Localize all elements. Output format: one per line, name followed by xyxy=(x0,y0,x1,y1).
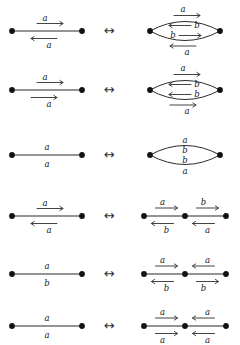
vertex xyxy=(147,152,153,158)
edge-label: b xyxy=(182,145,187,155)
edge-label: b xyxy=(194,79,199,89)
edge-label: b xyxy=(194,89,199,99)
vertex xyxy=(223,213,229,219)
graph-right-4: abba xyxy=(136,188,236,244)
equivalence-row: aa↔abba xyxy=(0,3,240,59)
graph-left-5: ab xyxy=(0,246,100,302)
edge-label: b xyxy=(201,283,206,293)
vertex xyxy=(217,152,223,158)
graph-right-5: abab xyxy=(136,246,236,302)
vertex xyxy=(141,323,147,329)
graph-right-6: aaaa xyxy=(136,298,236,345)
arrow-left-icon xyxy=(170,44,196,48)
right-graph-cell: abba xyxy=(136,62,236,118)
vertex xyxy=(79,213,85,219)
edge-label: b xyxy=(194,20,199,30)
equivalence-row: aa↔abba xyxy=(0,188,240,244)
equivalence-symbol: ↔ xyxy=(104,209,115,222)
edge-label: a xyxy=(180,4,185,14)
vertex xyxy=(9,213,15,219)
vertex xyxy=(9,87,15,93)
right-graph-cell: abab xyxy=(136,246,236,302)
arrow-left-icon xyxy=(169,92,191,96)
edge-label: a xyxy=(44,142,49,152)
graph-left-1: aa xyxy=(0,3,100,59)
edge-label: a xyxy=(160,255,165,265)
vertex xyxy=(79,271,85,277)
equivalence-symbol: ↔ xyxy=(104,267,115,280)
arrow-left-icon xyxy=(152,221,174,225)
vertex xyxy=(141,271,147,277)
graph-left-6: aa xyxy=(0,298,100,345)
edge-label: a xyxy=(44,159,49,169)
arrow-right-icon xyxy=(174,72,200,76)
vertex xyxy=(182,271,188,277)
vertex xyxy=(79,323,85,329)
arrow-left-icon xyxy=(152,279,174,283)
equivalence-row: aa↔abba xyxy=(0,127,240,183)
edge-label: a xyxy=(42,198,47,208)
graph-right-3: abba xyxy=(136,127,236,183)
vertex xyxy=(79,152,85,158)
edge-label: a xyxy=(44,261,49,271)
edge-label: b xyxy=(164,283,169,293)
edge-label: a xyxy=(42,72,47,82)
edge-label: a xyxy=(44,313,49,323)
edge-label: a xyxy=(205,225,210,235)
arrow-left-icon xyxy=(193,316,215,320)
vertex xyxy=(9,152,15,158)
arrow-right-icon xyxy=(170,103,196,107)
edge-label: b xyxy=(201,197,206,207)
vertex xyxy=(79,87,85,93)
edge-label: a xyxy=(44,330,49,340)
equivalence-symbol: ↔ xyxy=(104,319,115,332)
vertex xyxy=(141,213,147,219)
equivalence-row: aa↔aaaa xyxy=(0,298,240,345)
vertex xyxy=(217,28,223,34)
graph-left-2: aa xyxy=(0,62,100,118)
vertex xyxy=(147,28,153,34)
arrow-left-icon xyxy=(31,221,57,225)
graph-equivalence-figure: aa↔abbaaa↔abbaaa↔abbaaa↔abbaab↔ababaa↔aa… xyxy=(0,0,240,345)
equivalence-symbol: ↔ xyxy=(104,83,115,96)
edge-label: b xyxy=(170,30,175,40)
vertex xyxy=(9,271,15,277)
equivalence-row: aa↔abba xyxy=(0,62,240,118)
left-graph-cell: aa xyxy=(0,298,100,345)
arrow-right-icon xyxy=(179,33,201,37)
edge-label: a xyxy=(205,255,210,265)
right-graph-cell: abba xyxy=(136,127,236,183)
left-graph-cell: aa xyxy=(0,127,100,183)
edge-label: a xyxy=(42,13,47,23)
graph-right-2: abba xyxy=(136,62,236,118)
arrow-right-icon xyxy=(37,21,63,25)
arrow-right-icon xyxy=(174,13,200,17)
equivalence-row: ab↔abab xyxy=(0,246,240,302)
edge-label: a xyxy=(182,135,187,145)
left-graph-cell: ab xyxy=(0,246,100,302)
arrow-left-icon xyxy=(169,82,191,86)
edge-label: a xyxy=(184,106,189,116)
vertex xyxy=(182,213,188,219)
edge-label: b xyxy=(44,278,49,288)
equivalence-symbol: ↔ xyxy=(104,24,115,37)
vertex xyxy=(147,87,153,93)
edge-label: a xyxy=(205,307,210,317)
graph-right-1: abba xyxy=(136,3,236,59)
arrow-right-icon xyxy=(31,95,57,99)
arrow-right-icon xyxy=(156,331,178,335)
vertex xyxy=(217,87,223,93)
edge-label: a xyxy=(160,197,165,207)
left-graph-cell: aa xyxy=(0,62,100,118)
arrow-right-icon xyxy=(37,80,63,84)
edge-label: b xyxy=(164,225,169,235)
arrow-right-icon xyxy=(197,206,219,210)
edge-label: a xyxy=(46,40,51,50)
vertex xyxy=(223,323,229,329)
arrow-right-icon xyxy=(156,264,178,268)
graph-left-4: aa xyxy=(0,188,100,244)
arrow-left-icon xyxy=(169,23,191,27)
arrow-right-icon xyxy=(156,206,178,210)
edge-label: a xyxy=(205,335,210,345)
right-graph-cell: abba xyxy=(136,3,236,59)
